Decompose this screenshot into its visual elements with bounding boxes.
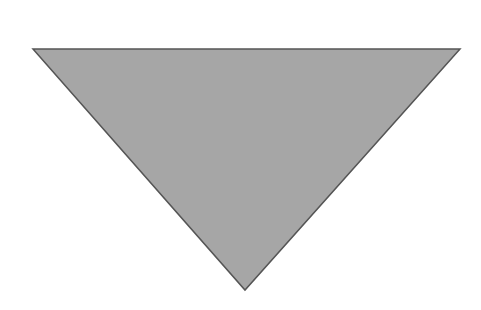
- diagram-canvas: [0, 0, 481, 310]
- diagram-svg: [0, 0, 481, 310]
- inverted-triangle-shape: [33, 49, 460, 290]
